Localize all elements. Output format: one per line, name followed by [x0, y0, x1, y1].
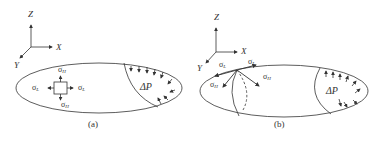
stress-element-a — [54, 82, 67, 94]
axis-x-label-a: X — [56, 43, 62, 52]
sigma-l-right-a: σL — [78, 84, 85, 92]
pressure-arrows-a — [131, 66, 175, 104]
axis-x-label-b: X — [241, 47, 247, 56]
caption-b: (b) — [274, 120, 285, 129]
axis-y-label-a: Y — [14, 61, 19, 70]
panel-b — [200, 28, 368, 117]
caption-a: (a) — [88, 120, 98, 129]
delta-p-label-a: ΔP — [140, 82, 152, 92]
axes-icon-b — [206, 28, 237, 63]
sigma-h-right-b: σH — [263, 73, 271, 81]
section-front-b — [232, 70, 239, 116]
panel-a — [16, 25, 182, 113]
diagram-canvas — [0, 0, 374, 145]
sigma-l-left-a: σL — [32, 84, 39, 92]
sigma-h-bottom-a: σH — [61, 101, 69, 109]
sigma-l-left-b: σL — [219, 61, 226, 69]
delta-p-label-b: ΔP — [326, 86, 338, 96]
sigma-h-top-a: σH — [58, 66, 66, 74]
axis-y-label-b: Y — [197, 64, 202, 73]
vessel-outline-a — [16, 63, 182, 113]
axis-z-label-b: Z — [214, 13, 219, 22]
sigma-l-right-b: σL — [248, 58, 255, 66]
axis-z-label-a: Z — [28, 10, 33, 19]
axes-icon-a — [20, 25, 52, 58]
sigma-h-left-b: σH — [210, 81, 218, 89]
